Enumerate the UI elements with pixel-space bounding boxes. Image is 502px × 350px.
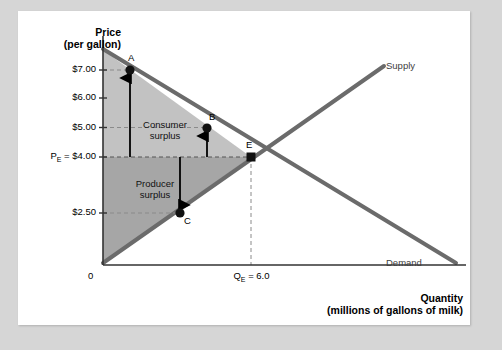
point-label-e: E [246, 139, 252, 150]
x-axis-title-line2: (millions of gallons of milk) [327, 304, 463, 316]
y-axis-title-line1: Price [95, 26, 121, 38]
demand-curve-label: Demand [386, 257, 422, 268]
x-tick-label-equilibrium-quantity: QE = 6.0 [214, 270, 289, 283]
y-tick-label-7: $7.00 [38, 63, 96, 74]
y-tick-text-2-50: $2.50 [72, 206, 96, 217]
data-point-a[interactable] [125, 65, 134, 74]
origin-label: 0 [88, 270, 93, 281]
y-tick-label-6: $6.00 [38, 91, 96, 102]
supply-curve-label: Supply [386, 60, 415, 71]
equilibrium-quantity-equals: = [246, 270, 257, 281]
x-axis-title-line1: Quantity [420, 292, 463, 304]
y-tick-text-7: $7.00 [72, 63, 96, 74]
point-label-a: A [128, 52, 134, 63]
consumer-surplus-line2: surplus [150, 130, 181, 141]
y-tick-label-5: $5.00 [38, 121, 96, 132]
point-label-c: C [184, 215, 191, 226]
y-tick-text-6: $6.00 [72, 91, 96, 102]
consumer-surplus-line1: Consumer [143, 119, 187, 130]
producer-surplus-line1: Producer [136, 178, 175, 189]
equilibrium-price-equals: = [61, 150, 72, 161]
producer-surplus-line2: surplus [140, 189, 171, 200]
data-point-e[interactable] [247, 153, 256, 162]
consumer-surplus-label: Consumer surplus [126, 119, 204, 141]
x-axis-title: Quantity (millions of gallons of milk) [317, 292, 463, 316]
y-tick-label-equilibrium-price: PE = $4.00 [20, 150, 96, 163]
equilibrium-quantity-symbol: Q [233, 270, 240, 281]
y-tick-text-4: $4.00 [72, 150, 96, 161]
y-tick-label-2-50: $2.50 [38, 206, 96, 217]
y-axis-title: Price (per gallon) [63, 26, 121, 50]
producer-surplus-label: Producer surplus [116, 178, 194, 200]
y-tick-text-5: $5.00 [72, 121, 96, 132]
y-axis-title-line2: (per gallon) [64, 38, 121, 50]
figure-container: Price (per gallon) Quantity (millions of… [0, 0, 502, 350]
point-label-b: B [209, 111, 215, 122]
equilibrium-quantity-value: 6.0 [256, 270, 269, 281]
